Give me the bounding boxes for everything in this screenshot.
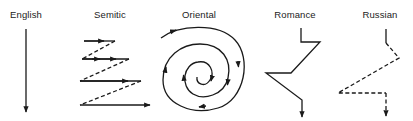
- romance-path: [266, 28, 320, 117]
- russian-path: [338, 29, 399, 116]
- oriental-spiral: [161, 27, 244, 110]
- semitic-zigzag: [80, 41, 150, 105]
- diagram-canvas: [0, 0, 413, 121]
